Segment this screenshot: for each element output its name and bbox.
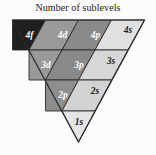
- sublevel-label-3s: 3s: [106, 56, 116, 66]
- sublevel-row-3: 3d 3p 3s: [29, 50, 128, 80]
- sublevel-label-4f: 4f: [25, 30, 35, 40]
- sublevel-label-4s: 4s: [123, 25, 133, 35]
- sublevel-triangle-diagram: 4f 4d 4p 4s 3d 3p 3s 2p 2s 1s: [0, 0, 156, 155]
- sublevel-label-2p: 2p: [57, 90, 68, 100]
- sublevel-label-2s: 2s: [90, 86, 100, 96]
- sublevel-triangle-figure: Number of sublevels 4f 4d 4p 4s 3d 3p 3s: [0, 0, 156, 155]
- sublevel-label-4d: 4d: [57, 30, 68, 40]
- sublevel-row-4: 4f 4d 4p 4s: [13, 20, 145, 50]
- sublevel-row-2: 2p 2s: [46, 80, 112, 111]
- sublevel-label-1s: 1s: [75, 117, 84, 127]
- sublevel-label-3p: 3p: [73, 60, 84, 70]
- sublevel-label-3d: 3d: [40, 60, 51, 70]
- sublevel-label-4p: 4p: [90, 30, 101, 40]
- sublevel-row-1: 1s: [62, 111, 95, 142]
